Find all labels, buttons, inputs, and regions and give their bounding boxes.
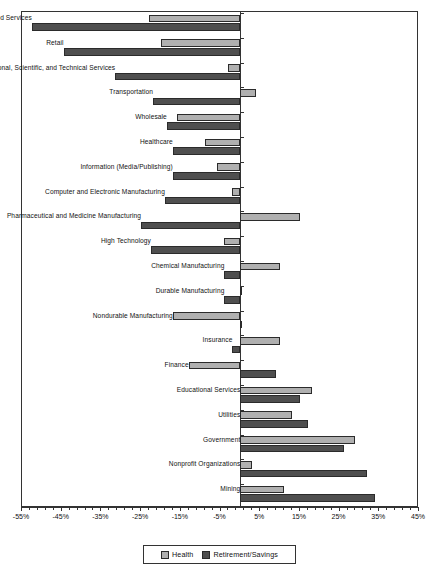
x-tick-minor — [243, 507, 244, 510]
category-label: Professional, Scientific, and Technical … — [0, 63, 115, 72]
bar-health — [240, 486, 284, 494]
x-tick-label: 5% — [254, 513, 264, 520]
row-tick — [240, 162, 244, 163]
category-label: Durable Manufacturing — [156, 286, 225, 295]
x-tick-minor — [53, 507, 54, 510]
bar-retirement-savings — [115, 73, 240, 81]
x-tick-major — [140, 507, 141, 511]
category-label: Government — [203, 435, 240, 444]
x-tick-minor — [92, 507, 93, 510]
bar-row: Insurance — [22, 334, 417, 359]
legend-item-retirement-savings: Retirement/Savings — [202, 550, 278, 559]
bar-row: Finance — [22, 359, 417, 384]
bar-retirement-savings — [224, 271, 240, 279]
x-tick-minor — [132, 507, 133, 510]
x-tick-label: -55% — [13, 513, 29, 520]
bar-row: Utilities — [22, 409, 417, 434]
row-tick — [240, 236, 244, 237]
x-tick-minor — [29, 507, 30, 510]
bar-row: Transportation — [22, 86, 417, 111]
bar-retirement-savings — [240, 370, 276, 378]
bar-retirement-savings — [240, 494, 375, 502]
bar-row: Educational Services — [22, 384, 417, 409]
x-tick-minor — [386, 507, 387, 510]
category-label: Nondurable Manufacturing — [93, 311, 173, 320]
bar-retirement-savings — [240, 445, 343, 453]
bar-health — [177, 114, 241, 122]
row-tick — [240, 112, 244, 113]
category-label: Chemical Manufacturing — [151, 261, 224, 270]
x-tick-minor — [148, 507, 149, 510]
bar-health — [240, 213, 300, 221]
x-tick-minor — [275, 507, 276, 510]
x-tick-major — [180, 507, 181, 511]
bar-retirement-savings — [64, 48, 241, 56]
bar-health — [240, 436, 355, 444]
x-tick-minor — [212, 507, 213, 510]
x-tick-minor — [196, 507, 197, 510]
x-tick-major — [100, 507, 101, 511]
bar-health — [232, 188, 240, 196]
row-tick — [240, 63, 244, 64]
bar-row: Retail — [22, 37, 417, 62]
category-label: Transportation — [109, 87, 153, 96]
row-tick — [240, 360, 244, 361]
bar-health — [189, 362, 241, 370]
x-tick-minor — [402, 507, 403, 510]
legend-label-health: Health — [172, 550, 193, 559]
bar-retirement-savings — [173, 172, 240, 180]
category-label: Information (Media/Publishing) — [80, 162, 172, 171]
x-tick-minor — [410, 507, 411, 510]
bar-health — [240, 337, 280, 345]
bar-row: Nondurable Manufacturing — [22, 310, 417, 335]
x-tick-minor — [85, 507, 86, 510]
bar-health — [149, 15, 240, 23]
x-tick-minor — [188, 507, 189, 510]
bar-retirement-savings — [232, 346, 240, 354]
legend-swatch-health — [161, 551, 169, 559]
bar-retirement-savings — [165, 197, 240, 205]
x-tick-minor — [124, 507, 125, 510]
bar-retirement-savings — [240, 395, 300, 403]
x-tick-minor — [331, 507, 332, 510]
x-tick-label: 25% — [332, 513, 346, 520]
x-tick-major — [259, 507, 260, 511]
x-tick-minor — [362, 507, 363, 510]
x-tick-minor — [69, 507, 70, 510]
bar-health — [205, 139, 241, 147]
bar-health — [240, 387, 311, 395]
x-tick-minor — [37, 507, 38, 510]
bar-row: High Technology — [22, 235, 417, 260]
x-tick-minor — [156, 507, 157, 510]
x-tick-label: -15% — [172, 513, 188, 520]
row-tick — [240, 13, 244, 14]
bar-row: Government — [22, 434, 417, 459]
bar-row: Professional, Scientific, and Technical … — [22, 62, 417, 87]
category-label: Utilities — [218, 410, 240, 419]
bar-row: Nonprofit Organizations — [22, 458, 417, 483]
x-tick-major — [418, 507, 419, 511]
bar-retirement-savings — [32, 23, 240, 31]
category-label: Educational Services — [177, 385, 241, 394]
bar-health — [161, 39, 240, 47]
x-tick-minor — [354, 507, 355, 510]
bar-row: Chemical Manufacturing — [22, 260, 417, 285]
bar-retirement-savings — [224, 296, 240, 304]
legend-label-retirement-savings: Retirement/Savings — [213, 550, 278, 559]
x-tick-minor — [307, 507, 308, 510]
x-tick-major — [378, 507, 379, 511]
bar-health — [240, 461, 252, 469]
bar-row: Accommodation and Food Services — [22, 12, 417, 37]
category-label: Healthcare — [140, 137, 173, 146]
x-tick-minor — [164, 507, 165, 510]
x-tick-major — [339, 507, 340, 511]
row-tick — [240, 137, 244, 138]
legend-item-health: Health — [161, 550, 193, 559]
x-tick-minor — [267, 507, 268, 510]
bar-row: Information (Media/Publishing) — [22, 161, 417, 186]
bar-retirement-savings — [240, 470, 367, 478]
x-tick-minor — [108, 507, 109, 510]
bar-health — [173, 312, 240, 320]
bar-health — [240, 287, 242, 295]
x-tick-major — [21, 507, 22, 511]
